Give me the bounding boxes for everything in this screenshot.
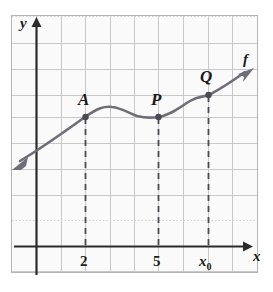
y-axis-label: y — [20, 16, 27, 31]
point-marker-A — [82, 114, 88, 120]
point-label-P: P — [151, 91, 161, 108]
x-tick-label-5: 5 — [153, 254, 161, 269]
x-tick-label-2: 2 — [80, 254, 88, 269]
x-axis-label: x — [253, 249, 261, 264]
curve-label-f: f — [243, 52, 248, 67]
x-tick-label-x0-base: x — [199, 253, 207, 269]
x-tick-label-x0: x0 — [199, 254, 212, 272]
figure-container: y x f A P Q 2 5 x0 — [0, 0, 273, 292]
point-marker-Q — [205, 92, 211, 98]
graph-canvas — [0, 0, 273, 292]
point-marker-P — [155, 114, 161, 120]
point-label-A: A — [78, 91, 89, 108]
x-tick-label-x0-subscript: 0 — [207, 261, 212, 272]
point-label-Q: Q — [200, 68, 212, 85]
